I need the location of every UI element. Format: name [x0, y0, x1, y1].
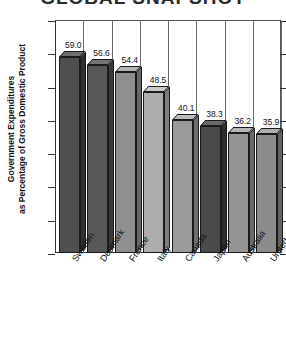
y-axis-tick-right	[280, 21, 286, 22]
chart-container: GLOBAL SNAPSHOT Government Expenditures …	[0, 0, 286, 342]
bar	[59, 57, 80, 253]
bar-side-face	[108, 59, 114, 253]
bar-side-face	[136, 67, 142, 253]
y-axis-tick	[48, 187, 55, 188]
plot-area: 59.056.654.448.540.138.336.235.9	[55, 20, 281, 253]
y-axis-tick	[48, 154, 55, 155]
bar-front-face	[59, 57, 80, 253]
bar-value-label: 38.3	[206, 109, 223, 119]
bar	[228, 133, 249, 253]
y-axis-tick-right	[280, 121, 286, 122]
bar-value-label: 54.4	[121, 55, 138, 65]
y-axis-tick-right	[280, 54, 286, 55]
y-axis-tick	[48, 121, 55, 122]
y-axis-line	[55, 21, 56, 253]
bar-side-face	[221, 120, 227, 253]
chart-title: GLOBAL SNAPSHOT	[0, 0, 286, 9]
bar-value-label: 35.9	[263, 117, 280, 127]
bar-value-label: 48.5	[150, 75, 167, 85]
y-axis-title: Government Expenditures as Percentage of…	[6, 19, 28, 239]
y-axis-tick	[48, 254, 55, 255]
bar-value-label: 36.2	[234, 116, 251, 126]
y-axis-tick	[48, 54, 55, 55]
bar	[115, 72, 136, 253]
y-axis-title-line-1: Government Expenditures	[6, 19, 17, 239]
bar-value-label: 56.6	[93, 48, 110, 58]
bar-side-face	[164, 86, 170, 253]
bar-front-face	[143, 92, 164, 253]
y-axis-tick	[48, 221, 55, 222]
bar-front-face	[172, 120, 193, 253]
y-axis-tick-right	[280, 88, 286, 89]
y-axis-tick	[48, 88, 55, 89]
bar-front-face	[228, 133, 249, 253]
bar	[87, 65, 108, 253]
bar-value-label: 59.0	[65, 40, 82, 50]
y-axis-tick	[48, 21, 55, 22]
bar-value-label: 40.1	[178, 103, 195, 113]
bar-side-face	[80, 51, 86, 253]
bar	[172, 120, 193, 253]
y-axis-title-line-2: as Percentage of Gross Domestic Product	[17, 19, 28, 239]
bar	[143, 92, 164, 253]
bar-front-face	[115, 72, 136, 253]
bar-front-face	[87, 65, 108, 253]
bar-side-face	[193, 114, 199, 253]
